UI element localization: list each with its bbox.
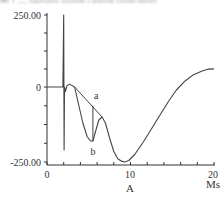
annotation-b: b: [90, 146, 95, 157]
y-tick-label-max: 250.00: [14, 10, 42, 21]
x-axis-title: A: [126, 182, 134, 194]
x-tick-label-0: 0: [45, 169, 50, 180]
axes: [44, 13, 215, 165]
main-trace-line: [47, 15, 214, 162]
series-group: [47, 15, 214, 162]
annotation-a: a: [94, 90, 99, 101]
line-chart: 250.00 0 -250.00 0 10 20 Ms A a b: [0, 0, 224, 197]
x-tick-label-10: 10: [125, 169, 135, 180]
x-unit-label: Ms: [206, 178, 220, 190]
y-tick-label-min: -250.00: [10, 157, 41, 168]
y-tick-label-zero: 0: [36, 82, 41, 93]
